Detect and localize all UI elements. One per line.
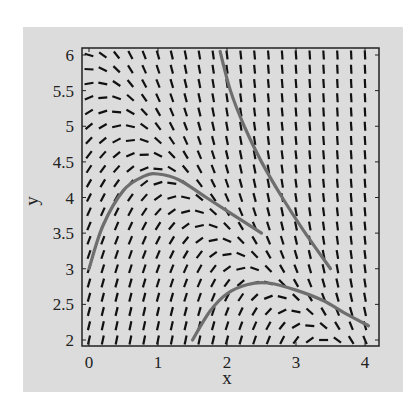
slope-dash — [213, 51, 214, 60]
slope-dash — [309, 122, 310, 131]
slope-dash — [337, 79, 338, 88]
slope-dash — [323, 65, 324, 74]
slope-dash — [351, 150, 352, 159]
slope-dash — [212, 108, 214, 117]
slope-dash — [238, 294, 243, 301]
slope-dash — [170, 265, 173, 273]
slope-dash — [365, 179, 366, 188]
slope-dash — [157, 65, 160, 74]
slope-dash — [226, 150, 228, 159]
slope-dash — [251, 251, 257, 257]
slope-dash — [170, 250, 174, 258]
slope-dash — [278, 296, 287, 298]
slope-dash — [254, 93, 255, 102]
slope-dash — [282, 93, 283, 102]
slope-dash — [156, 79, 159, 87]
slope-dash — [168, 167, 176, 172]
slope-dash — [155, 137, 162, 143]
slope-dash — [265, 266, 271, 272]
slope-dash — [323, 79, 324, 88]
slope-dash — [100, 179, 105, 187]
slope-dash — [323, 236, 324, 245]
slope-dash — [129, 222, 133, 230]
slope-dash — [237, 253, 245, 256]
slope-dash — [198, 151, 201, 159]
slope-dash — [210, 265, 215, 272]
slope-dash — [365, 108, 366, 117]
slope-dash — [337, 193, 338, 202]
slope-dash — [292, 311, 301, 313]
slope-dash — [337, 250, 338, 259]
slope-dash — [184, 93, 186, 102]
slope-dash — [278, 310, 286, 314]
slope-dash — [226, 179, 229, 187]
slope-dash — [322, 279, 325, 288]
slope-dash — [198, 93, 200, 102]
slope-dash — [211, 293, 214, 301]
slope-dash — [294, 265, 297, 273]
slope-dash — [268, 51, 269, 60]
slope-dash — [113, 81, 120, 86]
slope-dash — [268, 93, 269, 102]
slope-dash — [128, 194, 133, 201]
slope-dash — [306, 337, 313, 342]
slope-dash — [196, 238, 203, 243]
slope-dash — [280, 265, 284, 273]
slope-dash — [199, 51, 200, 60]
slope-dash — [169, 151, 175, 158]
slope-dash — [143, 307, 145, 316]
slope-dash — [267, 193, 269, 202]
y-tick-label: 3.5 — [53, 224, 74, 243]
slope-dash — [351, 122, 352, 131]
slope-dash — [224, 279, 229, 286]
y-tick-label: 2.5 — [53, 295, 74, 314]
slope-dash — [266, 251, 270, 259]
slope-dash — [212, 136, 214, 145]
slope-dash — [268, 150, 269, 159]
slope-dash — [157, 321, 159, 330]
slope-dash — [281, 236, 284, 245]
slope-dash — [238, 237, 244, 244]
slope-dash — [183, 237, 189, 244]
slope-dash — [115, 208, 119, 216]
slope-field-chart: 0123422.533.544.555.56 x y — [0, 0, 411, 414]
slope-dash — [240, 336, 243, 345]
y-tick-label: 4 — [66, 189, 75, 208]
slope-dash — [86, 151, 91, 158]
slope-dash — [212, 165, 215, 173]
slope-dash — [198, 293, 201, 301]
slope-dash — [351, 179, 352, 188]
slope-dash — [309, 193, 310, 202]
slope-dash — [365, 193, 366, 202]
slope-dash — [323, 108, 324, 117]
slope-dash — [226, 108, 228, 117]
slope-dash — [323, 150, 324, 159]
slope-dash — [365, 150, 366, 159]
slope-dash — [210, 209, 217, 215]
slope-dash — [116, 321, 118, 330]
slope-dash — [282, 65, 283, 74]
slope-dash — [323, 222, 324, 231]
slope-dash — [236, 268, 245, 270]
slope-dash — [87, 193, 91, 201]
slope-dash — [282, 51, 283, 60]
slope-dash — [181, 211, 190, 213]
slope-dash — [351, 222, 352, 231]
slope-dash — [169, 137, 174, 145]
slope-dash — [198, 279, 202, 287]
slope-dash — [364, 279, 365, 288]
slope-dash — [127, 166, 134, 172]
slope-dash — [184, 279, 187, 287]
slope-dash — [129, 293, 131, 302]
slope-dash — [253, 193, 255, 202]
slope-dash — [309, 264, 312, 273]
slope-dash — [100, 165, 105, 172]
slope-dash — [351, 165, 352, 174]
slope-dash — [101, 236, 104, 244]
slope-dash — [143, 321, 145, 330]
slope-dash — [100, 151, 106, 158]
slope-dash — [323, 264, 325, 273]
slope-dash — [115, 279, 117, 288]
slope-dash — [337, 65, 338, 74]
slope-dash — [171, 336, 173, 345]
